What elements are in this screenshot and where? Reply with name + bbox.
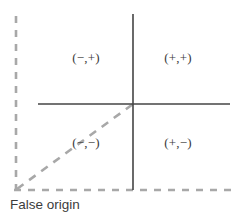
quadrant-label-top-left: (−,+) — [56, 50, 116, 66]
quadrant-label-bottom-left: (−,−) — [56, 135, 116, 151]
axes-canvas — [0, 0, 233, 223]
quadrant-label-top-right: (+,+) — [148, 50, 208, 66]
false-origin-caption: False origin — [10, 197, 80, 212]
quadrant-label-bottom-right: (+,−) — [148, 135, 208, 151]
quadrant-sign-diagram: (−,+) (+,+) (−,−) (+,−) False origin — [0, 0, 233, 223]
